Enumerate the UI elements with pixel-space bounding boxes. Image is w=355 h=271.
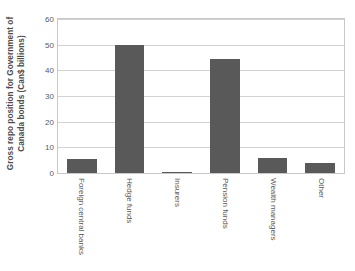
bar-slot [201,19,249,173]
x-axis-label-slot: Pension funds [201,176,249,268]
bars-container [58,19,344,173]
x-axis-tick-label: Foreign central banks [77,178,86,255]
x-axis-label-slot: Wealth managers [249,176,297,268]
x-axis-label-slot: Insurers [153,176,201,268]
bar[interactable] [210,59,240,173]
plot-area [57,18,345,174]
axis-baseline [58,173,344,174]
y-axis-title: Gross repo position for Government of Ca… [0,0,34,186]
y-axis-title-text: Gross repo position for Government of Ca… [7,16,28,169]
y-axis-tick-label: 10 [45,143,54,152]
bar[interactable] [305,163,335,173]
x-axis-tick-label: Pension funds [221,178,230,229]
x-axis-tick-label: Hedge funds [125,178,134,223]
y-axis-tick-label: 20 [45,117,54,126]
bar[interactable] [258,158,288,173]
y-axis-tick-label: 0 [50,169,54,178]
bar-slot [106,19,154,173]
bar[interactable] [162,172,192,173]
x-axis-label-slot: Hedge funds [105,176,153,268]
y-axis-tick-label: 50 [45,40,54,49]
y-axis-title-line-1: Gross repo position for Government of [7,16,18,169]
y-axis-tick-labels: 0102030405060 [34,0,57,186]
y-axis-tick-label: 30 [45,92,54,101]
x-axis-label-slot: Foreign central banks [57,176,105,268]
bar[interactable] [67,159,97,173]
y-axis-tick-label: 60 [45,15,54,24]
bar-slot [249,19,297,173]
bar[interactable] [115,45,145,173]
x-axis-label-slot: Other [297,176,345,268]
x-axis-tick-label: Insurers [173,178,182,207]
x-axis-tick-labels: Foreign central banksHedge fundsInsurers… [57,176,345,268]
y-axis-tick-label: 40 [45,66,54,75]
bar-slot [153,19,201,173]
bar-slot [58,19,106,173]
bar-slot [296,19,344,173]
x-axis-tick-label: Wealth managers [269,178,278,241]
bar-chart: Gross repo position for Government of Ca… [0,0,355,271]
y-axis-title-line-2: Canada bonds (Can$ billions) [17,16,28,169]
x-axis-tick-label: Other [317,178,326,198]
